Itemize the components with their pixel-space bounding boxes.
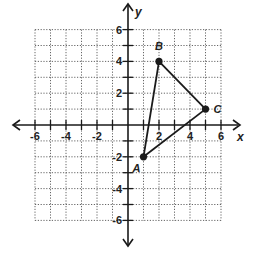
y-tick-label: -4 xyxy=(112,183,123,195)
y-tick-label: 2 xyxy=(116,87,122,99)
point-label-b: B xyxy=(155,40,163,52)
triangle-vertices: ABC xyxy=(132,40,223,173)
point-a xyxy=(140,153,147,160)
point-label-c: C xyxy=(214,103,223,115)
axes: -6-4-2246642-2-4-6 x y xyxy=(13,4,245,246)
coordinate-plane: -6-4-2246642-2-4-6 x y ABC xyxy=(0,0,259,259)
x-tick-label: 6 xyxy=(218,130,224,142)
segment-ca xyxy=(144,109,206,157)
point-b xyxy=(155,58,162,65)
x-tick-label: 2 xyxy=(156,130,162,142)
segment-bc xyxy=(159,61,206,109)
x-axis-label: x xyxy=(236,130,245,144)
y-axis-label: y xyxy=(134,5,143,19)
x-tick-label: -6 xyxy=(30,130,40,142)
y-tick-label: -2 xyxy=(112,151,122,163)
x-tick-label: 4 xyxy=(187,130,194,142)
segment-ab xyxy=(144,61,160,156)
point-label-a: A xyxy=(132,162,141,174)
point-c xyxy=(202,106,209,113)
y-tick-label: 4 xyxy=(116,55,123,67)
y-tick-label: 6 xyxy=(116,24,122,36)
x-tick-label: -2 xyxy=(92,130,102,142)
y-tick-label: -6 xyxy=(112,214,122,226)
x-tick-label: -4 xyxy=(61,130,72,142)
